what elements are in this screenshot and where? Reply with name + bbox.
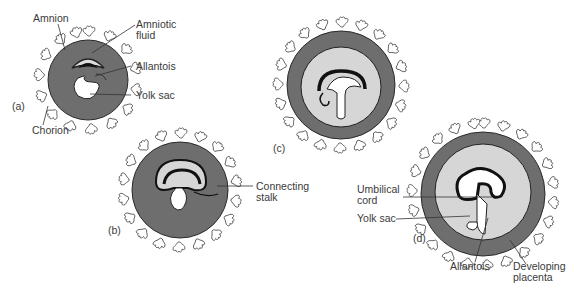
label-chorion: Chorion: [32, 125, 69, 136]
label-developing-placenta: Developing placenta: [513, 261, 566, 283]
label-stage-d: (d): [413, 233, 426, 244]
stage-a-embryo: [34, 26, 142, 135]
label-yolk-sac-d: Yolk sac: [357, 213, 396, 224]
label-umbilical-cord: Umbilical cord: [357, 184, 400, 206]
label-stage-a: (a): [12, 101, 25, 112]
label-allantois-d: Allantois: [450, 261, 490, 272]
label-allantois-a: Allantois: [136, 61, 176, 72]
label-stage-b: (b): [108, 225, 121, 236]
embryo-diagram: [0, 0, 576, 291]
label-yolk-sac-a: Yolk sac: [136, 90, 175, 101]
stage-d-embryo: [407, 118, 559, 271]
stage-b-embryo: [118, 128, 243, 252]
label-amnion: Amnion: [33, 13, 69, 24]
label-amniotic-fluid: Amniotic fluid: [136, 19, 176, 41]
stage-c-embryo: [273, 17, 409, 153]
label-connecting-stalk: Connecting stalk: [256, 181, 309, 203]
label-stage-c: (c): [273, 143, 285, 154]
